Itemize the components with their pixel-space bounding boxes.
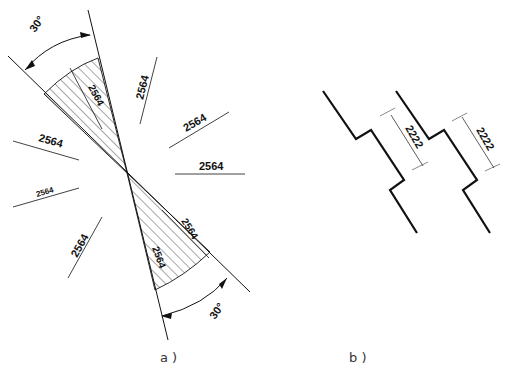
dimension-label: 2564 bbox=[37, 131, 65, 150]
dimension-label: 2564 bbox=[35, 185, 55, 199]
dimension-label: 2564 bbox=[68, 231, 91, 259]
upper-angle-label: 30° bbox=[27, 14, 46, 35]
stepped-line-right bbox=[396, 91, 490, 233]
arrowhead-icon bbox=[219, 278, 227, 289]
lower-angle-label: 30° bbox=[207, 301, 226, 322]
extension-line bbox=[412, 162, 428, 170]
arrowhead-icon bbox=[80, 32, 91, 38]
panel-b: 2222 2222 b ) bbox=[323, 91, 500, 365]
stepped-line-left bbox=[323, 91, 417, 233]
technical-drawing: 30° 30° 2564 2564 2564 2564 2564 2564 25… bbox=[0, 0, 507, 374]
dimension-label: 2564 bbox=[181, 111, 209, 134]
panel-a: 30° 30° 2564 2564 2564 2564 2564 2564 25… bbox=[8, 10, 250, 365]
dimension-label: 2564 bbox=[133, 73, 151, 101]
panel-a-caption: a ) bbox=[160, 350, 177, 365]
panel-b-caption: b ) bbox=[349, 350, 366, 365]
dimension-label: 2222 bbox=[474, 125, 497, 152]
upper-angle-arc bbox=[25, 35, 90, 70]
upper-hatched-sector bbox=[44, 58, 127, 173]
dimension-label: 2564 bbox=[199, 160, 224, 172]
dimension-label: 2222 bbox=[403, 123, 426, 150]
extension-line bbox=[452, 113, 467, 121]
extension-line bbox=[380, 108, 395, 116]
